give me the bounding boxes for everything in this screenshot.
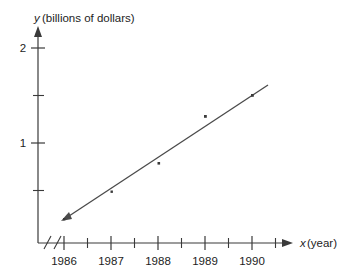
x-tick-label-1986: 1986 — [51, 255, 77, 267]
trend-line-start-arrowhead — [61, 212, 72, 221]
y-axis-arrowhead — [34, 26, 42, 37]
x-tick-label-1988: 1988 — [145, 255, 171, 267]
line-of-best-fit — [66, 85, 268, 218]
x-axis-group — [38, 236, 293, 250]
y-axis-title-variable: y — [33, 12, 41, 24]
y-axis-title-units: (billions of dollars) — [42, 12, 135, 24]
x-axis-title-variable: x — [299, 237, 307, 249]
scatter-chart: 2 1 1986 1987 1988 1989 1990 y (billions… — [0, 0, 354, 274]
chart-canvas: 2 1 1986 1987 1988 1989 1990 y (billions… — [0, 0, 354, 274]
x-axis-arrowhead — [282, 239, 293, 247]
x-tick-label-1987: 1987 — [98, 255, 124, 267]
data-point-1988 — [158, 162, 161, 165]
data-point-1989 — [204, 115, 207, 118]
y-tick-label-2: 2 — [20, 42, 26, 54]
trend-line-group — [61, 85, 268, 221]
data-point-1990 — [251, 94, 254, 97]
x-tick-label-1990: 1990 — [239, 255, 265, 267]
x-axis-title-units: (year) — [307, 237, 337, 249]
y-tick-label-1: 1 — [20, 137, 26, 149]
y-axis-group — [31, 26, 45, 243]
x-tick-label-1989: 1989 — [192, 255, 218, 267]
data-point-1986 — [63, 218, 65, 220]
data-point-1987 — [111, 191, 113, 193]
